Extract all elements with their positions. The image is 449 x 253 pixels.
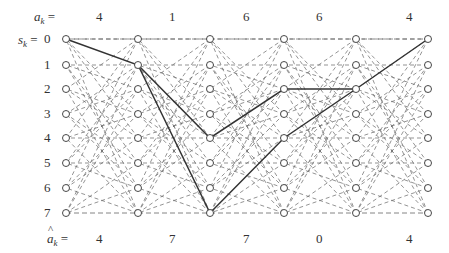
top-value: 1 xyxy=(169,10,176,23)
trellis-node xyxy=(207,36,214,43)
trellis-node xyxy=(135,210,142,217)
state-label: sk = xyxy=(18,33,38,49)
top-value: 6 xyxy=(316,10,323,23)
trellis-node xyxy=(425,36,432,43)
trellis-node xyxy=(425,86,432,93)
trellis-node xyxy=(281,111,288,118)
trellis-node xyxy=(135,111,142,118)
bottom-value: 7 xyxy=(243,232,250,245)
trellis-node xyxy=(135,86,142,93)
trellis-node xyxy=(281,62,288,69)
trellis-node xyxy=(353,86,360,93)
trellis-node xyxy=(207,160,214,167)
trellis-node xyxy=(207,210,214,217)
trellis-node xyxy=(281,185,288,192)
trellis-node xyxy=(425,210,432,217)
top-value: 4 xyxy=(406,10,413,23)
state-label-7: 7 xyxy=(44,206,51,219)
trellis-node xyxy=(353,210,360,217)
bottom-value: 7 xyxy=(169,232,176,245)
state-label-2: 2 xyxy=(44,82,51,95)
trellis-node xyxy=(353,185,360,192)
trellis-node xyxy=(135,62,142,69)
state-label-1: 1 xyxy=(44,58,51,71)
trellis-node xyxy=(207,185,214,192)
trellis-node xyxy=(425,62,432,69)
trellis-node xyxy=(135,185,142,192)
trellis-node xyxy=(281,86,288,93)
trellis-node xyxy=(281,135,288,142)
trellis-node xyxy=(207,135,214,142)
trellis-node xyxy=(281,210,288,217)
trellis-diagram xyxy=(0,0,449,253)
top-value: 6 xyxy=(243,10,250,23)
bottom-value: 4 xyxy=(96,232,103,245)
trellis-node xyxy=(207,111,214,118)
trellis-node xyxy=(135,36,142,43)
trellis-node xyxy=(63,36,70,43)
state-label-3: 3 xyxy=(44,107,51,120)
trellis-node xyxy=(281,160,288,167)
trellis-node xyxy=(63,185,70,192)
state-label-5: 5 xyxy=(44,156,51,169)
trellis-node xyxy=(207,86,214,93)
bottom-estimate-label: ^ak = xyxy=(47,232,68,248)
trellis-node xyxy=(63,210,70,217)
trellis-node xyxy=(63,86,70,93)
state-label-0: 0 xyxy=(44,32,51,45)
trellis-node xyxy=(425,185,432,192)
trellis-node xyxy=(425,111,432,118)
top-value: 4 xyxy=(96,10,103,23)
trellis-node xyxy=(207,62,214,69)
trellis-node xyxy=(63,111,70,118)
trellis-node xyxy=(353,135,360,142)
bottom-value: 4 xyxy=(406,232,413,245)
trellis-node xyxy=(425,135,432,142)
trellis-node xyxy=(425,160,432,167)
trellis-node xyxy=(353,111,360,118)
state-label-6: 6 xyxy=(44,181,51,194)
trellis-node xyxy=(63,62,70,69)
dashed-branches xyxy=(66,39,428,213)
bottom-value: 0 xyxy=(316,232,323,245)
trellis-node xyxy=(63,135,70,142)
trellis-node xyxy=(353,36,360,43)
trellis-node xyxy=(281,36,288,43)
trellis-node xyxy=(353,62,360,69)
trellis-node xyxy=(353,160,360,167)
top-input-label: ak = xyxy=(34,10,55,26)
state-label-4: 4 xyxy=(44,131,51,144)
trellis-node xyxy=(135,135,142,142)
trellis-node xyxy=(63,160,70,167)
trellis-node xyxy=(135,160,142,167)
